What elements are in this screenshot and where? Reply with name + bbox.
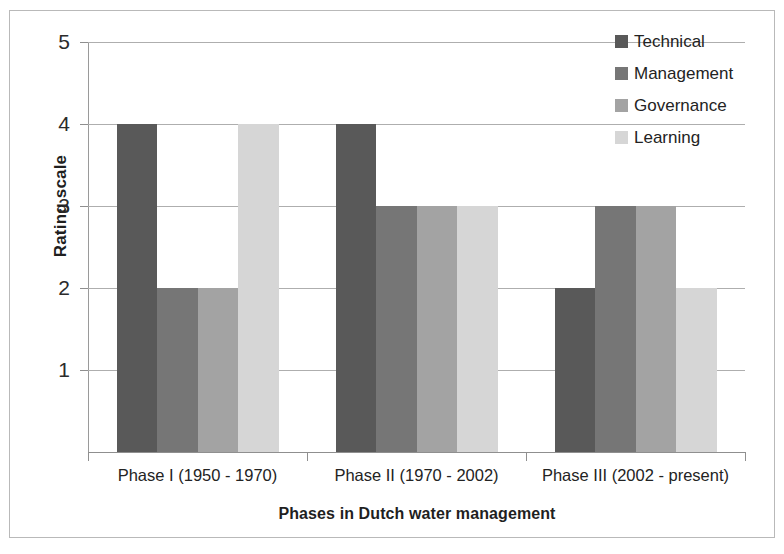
bar (117, 124, 158, 452)
legend-swatch-icon (615, 35, 628, 48)
legend-item-governance[interactable]: Governance (615, 94, 727, 116)
bar (595, 206, 636, 452)
y-tick-label-5: 5 (30, 31, 70, 52)
legend-label: Learning (634, 129, 700, 146)
chart-figure: Rating scale 12345 Phase I (1950 - 1970)… (0, 0, 784, 554)
x-tick (745, 452, 746, 461)
legend-swatch-icon (615, 99, 628, 112)
legend-label: Technical (634, 33, 705, 50)
y-tick-4 (80, 124, 88, 125)
bar (238, 124, 279, 452)
x-tick (526, 452, 527, 461)
y-tick-5 (80, 42, 88, 43)
gridline-4 (88, 124, 745, 125)
bar (676, 288, 717, 452)
legend-item-technical[interactable]: Technical (615, 30, 705, 52)
x-category-label: Phase I (1950 - 1970) (88, 466, 307, 485)
y-tick-label-1: 1 (30, 359, 70, 380)
x-axis-line (88, 452, 746, 453)
y-tick-1 (80, 370, 88, 371)
legend-swatch-icon (615, 131, 628, 144)
bar (457, 206, 498, 452)
y-tick-2 (80, 288, 88, 289)
y-tick-label-4: 4 (30, 113, 70, 134)
x-tick (88, 452, 89, 461)
bar (636, 206, 677, 452)
x-tick (307, 452, 308, 461)
bar (555, 288, 596, 452)
y-tick-label-3: 3 (30, 195, 70, 216)
legend-item-learning[interactable]: Learning (615, 126, 700, 148)
x-category-label: Phase II (1970 - 2002) (307, 466, 526, 485)
x-category-label: Phase III (2002 - present) (526, 466, 745, 485)
bar (198, 288, 239, 452)
y-tick-3 (80, 206, 88, 207)
bar (157, 288, 198, 452)
y-tick-label-2: 2 (30, 277, 70, 298)
legend-label: Governance (634, 97, 727, 114)
legend-item-management[interactable]: Management (615, 62, 733, 84)
bar (336, 124, 377, 452)
legend-swatch-icon (615, 67, 628, 80)
bar (417, 206, 458, 452)
x-axis-title: Phases in Dutch water management (88, 505, 746, 523)
bar (376, 206, 417, 452)
legend-label: Management (634, 65, 733, 82)
